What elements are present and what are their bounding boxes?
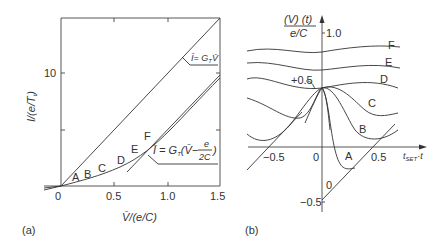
annotation-offset: Ī = GT(V̄− [153, 144, 199, 157]
line-ohmic [61, 18, 220, 186]
annotation-ohmic: Ī= GTV̄ [191, 53, 219, 64]
curve-F [247, 46, 400, 53]
curve-label: E [385, 56, 392, 68]
panel-label-b: (b) [245, 224, 258, 236]
panel-a: 0 0.5 1.0 1.5 10 V̄/(e/C) I/(e/Tt) A B C… [22, 18, 225, 236]
y-tick-label: −0.5 [300, 196, 322, 208]
x-tick-label: 0 [313, 151, 319, 163]
point-label: E [131, 143, 138, 155]
curve-label: B [359, 123, 366, 135]
x-tick-label: 0.5 [371, 151, 386, 163]
point-label: C [98, 162, 106, 174]
x-arrow-icon [419, 145, 427, 150]
curve-B [247, 88, 398, 141]
panel-label-a: (a) [22, 224, 35, 236]
point-label: B [84, 168, 91, 180]
x-tick-label: 1.5 [210, 190, 225, 202]
x-tick-label: 1.0 [160, 190, 175, 202]
curve-E [247, 63, 400, 71]
y-arrow-icon [320, 15, 325, 23]
y-axis-label-num: (V) (t) [284, 13, 312, 25]
point-label: A [72, 171, 80, 183]
figure: 0 0.5 1.0 1.5 10 V̄/(e/C) I/(e/Tt) A B C… [0, 0, 439, 251]
x-tick-label: 0 [55, 190, 61, 202]
curve-D [247, 78, 398, 89]
y-tick-label: +0.5 [291, 74, 313, 86]
x-tick-label: −0.5 [263, 151, 285, 163]
curve-label: 0 [326, 179, 332, 191]
annotation-frac-num: e [204, 139, 209, 149]
x-tick-label: 0.5 [106, 190, 121, 202]
curve-label: F [388, 39, 395, 51]
curve-label: A [345, 150, 353, 162]
y-axis-label: I/(e/Tt) [25, 91, 38, 122]
point-label: D [117, 154, 125, 166]
panel-b: 1.0 +0.5 −0.5 −0.5 0 0.5 (V) (t) e/C tSE… [245, 13, 427, 236]
y-tick-label: 1.0 [326, 27, 341, 39]
x-axis-label: V̄/(e/C) [122, 211, 157, 223]
annotation-frac-den: 2C [198, 152, 211, 162]
point-label: F [144, 130, 151, 142]
curve-label: C [368, 97, 376, 109]
y-axis-label-den: e/C [290, 27, 307, 39]
x-axis-label: tSET·t [403, 151, 423, 162]
y-tick-label: 10 [44, 67, 56, 79]
curve-label: D [380, 73, 388, 85]
